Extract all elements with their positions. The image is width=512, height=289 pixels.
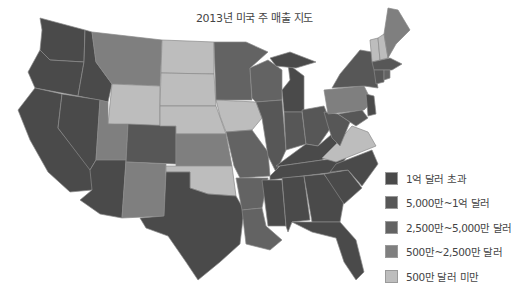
legend-swatch bbox=[385, 172, 398, 185]
legend-item-over-100m: 1억 달러 초과 bbox=[385, 166, 512, 191]
legend-label: 2,500만~5,000만 달러 bbox=[406, 220, 512, 235]
legend-swatch bbox=[385, 245, 398, 258]
legend-item-25m-50m: 2,500만~5,000만 달러 bbox=[385, 215, 512, 240]
legend-label: 500만~2,500만 달러 bbox=[406, 244, 503, 259]
state-nm bbox=[122, 162, 166, 218]
legend-label: 1억 달러 초과 bbox=[406, 171, 466, 186]
legend-item-under-5m: 500만 달러 미만 bbox=[385, 264, 512, 289]
legend-swatch bbox=[385, 221, 398, 234]
state-sd bbox=[160, 73, 216, 106]
legend: 1억 달러 초과 5,000만~1억 달러 2,500만~5,000만 달러 5… bbox=[385, 166, 512, 289]
state-mi bbox=[282, 64, 304, 112]
state-co bbox=[126, 124, 176, 164]
legend-label: 500만 달러 미만 bbox=[406, 269, 479, 284]
legend-item-5m-25m: 500만~2,500만 달러 bbox=[385, 240, 512, 265]
state-fl bbox=[292, 222, 364, 280]
legend-label: 5,000만~1억 달러 bbox=[406, 195, 490, 210]
state-pa bbox=[324, 86, 372, 114]
legend-swatch bbox=[385, 270, 398, 283]
state-nd bbox=[161, 40, 214, 74]
state-ri bbox=[384, 70, 390, 80]
legend-item-50m-100m: 5,000만~1억 달러 bbox=[385, 191, 512, 216]
legend-swatch bbox=[385, 196, 398, 209]
state-wa bbox=[40, 18, 85, 62]
state-ct bbox=[374, 70, 384, 84]
state-wy bbox=[108, 84, 160, 128]
state-ks bbox=[176, 134, 232, 166]
state-nj bbox=[366, 94, 376, 116]
state-mi-up bbox=[270, 52, 316, 68]
state-me bbox=[384, 8, 410, 58]
